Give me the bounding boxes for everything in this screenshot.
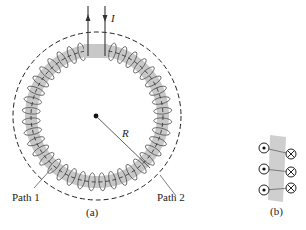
panel-b: (b) [259, 135, 296, 218]
dot-center [262, 146, 265, 149]
radius-label: R [121, 127, 129, 139]
panel-a: I R Path 1 Path 2 (a) [12, 6, 185, 219]
panel-a-caption: (a) [86, 206, 99, 219]
current-down-arrow-icon [103, 15, 108, 22]
radius-line [96, 116, 150, 168]
current-up-arrow-icon [86, 14, 91, 21]
path-2-label: Path 2 [157, 191, 185, 203]
dot-center [262, 188, 265, 191]
core-segment [268, 135, 286, 202]
path-1-leader [34, 168, 52, 188]
panel-b-caption: (b) [270, 205, 283, 218]
current-label: I [110, 12, 116, 24]
dot-center [262, 167, 265, 170]
path-1-label: Path 1 [12, 191, 40, 203]
toroid-figure: I R Path 1 Path 2 (a) (b) [0, 0, 306, 230]
